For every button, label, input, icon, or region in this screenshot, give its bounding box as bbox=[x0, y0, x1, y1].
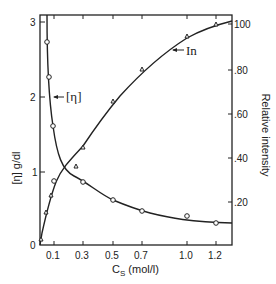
in-label: In bbox=[186, 43, 197, 58]
x-tick-0.3: 0.3 bbox=[75, 250, 89, 261]
eta-annotation: [η] bbox=[53, 89, 81, 104]
x-tick-0.7: 0.7 bbox=[134, 250, 148, 261]
y-right-title: Relative intensity bbox=[260, 93, 272, 177]
right-tick-80: .80 bbox=[234, 65, 248, 76]
x-tick-1.0: 1.0 bbox=[179, 250, 193, 261]
eta-curve bbox=[47, 15, 232, 223]
eta-label: [η] bbox=[66, 89, 81, 104]
left-tick-3: 3 bbox=[30, 17, 36, 28]
left-axis bbox=[40, 22, 45, 172]
right-tick-100: 100 bbox=[234, 19, 251, 30]
x-tick-0.1: 0.1 bbox=[46, 250, 60, 261]
y-left-title: [η] g/dl bbox=[10, 151, 22, 184]
left-tick-1: 1 bbox=[32, 167, 38, 178]
eta-markers bbox=[45, 40, 219, 226]
right-tick-60: .60 bbox=[234, 109, 248, 120]
left-tick-0: 0 bbox=[30, 240, 36, 251]
x-tick-1.2: 1.2 bbox=[208, 250, 222, 261]
x-tick-0.5: 0.5 bbox=[105, 250, 119, 261]
left-tick-2: 2 bbox=[30, 92, 36, 103]
right-tick-20: .20 bbox=[234, 197, 248, 208]
x-title: CS (mol/l) bbox=[112, 263, 159, 278]
right-tick-40: .40 bbox=[234, 153, 248, 164]
plot-frame bbox=[40, 15, 232, 245]
chart: 3 2 1 0 0.1 0.3 0.5 0.7 1.0 1.2 100 .80 … bbox=[0, 0, 276, 284]
intensity-curve bbox=[40, 21, 232, 245]
